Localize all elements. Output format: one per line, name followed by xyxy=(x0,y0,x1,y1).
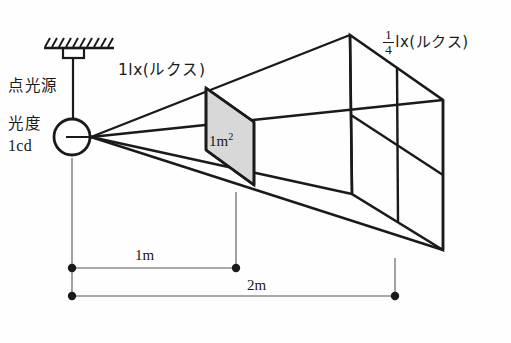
label-far-illuminance: 14lx(ルクス) xyxy=(383,28,469,56)
fraction-denominator: 4 xyxy=(383,43,394,57)
ray-bottom-front xyxy=(91,137,443,250)
dimension-dot-2m-right xyxy=(391,292,399,300)
illuminance-diagram-figure: 点光源 光度 1cd 1lx(ルクス) 14lx(ルクス) 1m2 1m 2m xyxy=(0,0,511,343)
label-unit-area-exponent: 2 xyxy=(228,131,233,142)
ray-top-front xyxy=(91,100,443,137)
dimension-dot-1m-left xyxy=(68,264,76,272)
ceiling-hatching xyxy=(45,38,113,47)
fraction-one-quarter: 14 xyxy=(383,28,394,56)
dimension-dot-2m-left xyxy=(68,292,76,300)
far-plane-group xyxy=(350,35,443,250)
label-distance-far: 2m xyxy=(247,278,266,294)
fraction-numerator: 1 xyxy=(383,28,394,42)
label-point-source: 点光源 xyxy=(8,78,58,94)
label-near-illuminance: 1lx(ルクス) xyxy=(118,62,205,78)
canopy-plate xyxy=(63,48,84,58)
dimension-dot-1m-right xyxy=(232,264,240,272)
light-source-group xyxy=(54,119,93,155)
dimension-lines-group xyxy=(68,264,399,300)
label-distance-near: 1m xyxy=(135,248,154,264)
label-intensity-value: 1cd xyxy=(8,138,32,155)
label-luminous-intensity: 光度 xyxy=(8,116,41,132)
label-unit-area-value: 1m xyxy=(209,133,228,149)
label-unit-area: 1m2 xyxy=(209,132,233,150)
label-far-illuminance-unit: lx(ルクス) xyxy=(395,33,468,51)
dimension-leaders-group xyxy=(72,158,395,296)
